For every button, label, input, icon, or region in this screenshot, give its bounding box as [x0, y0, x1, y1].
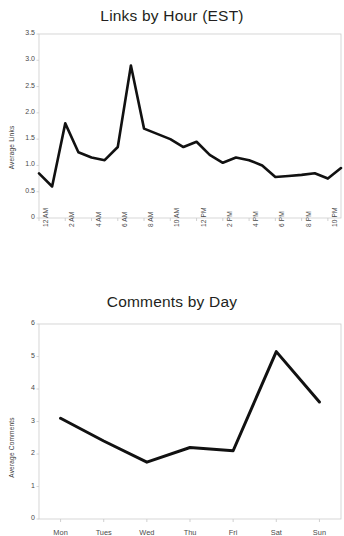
y-tick-label: 2.5 — [13, 82, 35, 89]
links-line-plot — [0, 26, 344, 286]
comments-line-plot — [0, 312, 344, 536]
y-tick-label: 3.0 — [13, 55, 35, 62]
links-chart-title: Links by Hour (EST) — [0, 0, 344, 26]
x-tick-label: 8 PM — [305, 211, 312, 227]
x-tick-label: 8 AM — [147, 212, 154, 227]
comments-plot-area: Average Comments 0123456 MonTuesWedThuFr… — [0, 312, 344, 536]
links-y-axis-title: Average Links — [8, 118, 15, 178]
y-tick-label: 4 — [13, 384, 35, 391]
y-tick-label: 2 — [13, 449, 35, 456]
x-tick-label: 4 AM — [95, 212, 102, 227]
x-tick-label: 2 AM — [68, 212, 75, 227]
x-tick-label: Mon — [41, 528, 81, 536]
x-tick-label: Sun — [299, 528, 339, 536]
y-tick-label: 0 — [13, 514, 35, 521]
x-tick-label: Sat — [256, 528, 296, 536]
y-tick-label: 6 — [13, 319, 35, 326]
x-tick-label: Tues — [84, 528, 124, 536]
links-by-hour-chart: Links by Hour (EST) Average Links 00.51.… — [0, 0, 344, 284]
x-tick-label: 2 PM — [226, 211, 233, 227]
chart-page: Links by Hour (EST) Average Links 00.51.… — [0, 0, 344, 536]
y-tick-label: 1 — [13, 482, 35, 489]
y-tick-label: 5 — [13, 352, 35, 359]
y-tick-label: 2.0 — [13, 108, 35, 115]
x-tick-label: Thu — [170, 528, 210, 536]
y-tick-label: 0.5 — [13, 187, 35, 194]
x-tick-label: 4 PM — [252, 211, 259, 227]
comments-by-day-chart: Comments by Day Average Comments 0123456… — [0, 284, 344, 536]
x-tick-label: 10 AM — [173, 208, 180, 227]
x-tick-label: 12 PM — [200, 207, 207, 227]
y-tick-label: 3.5 — [13, 29, 35, 36]
x-tick-label: 12 AM — [42, 208, 49, 227]
y-tick-label: 3 — [13, 417, 35, 424]
y-tick-label: 1.5 — [13, 134, 35, 141]
x-tick-label: 10 PM — [331, 207, 338, 227]
x-tick-label: Wed — [127, 528, 167, 536]
x-tick-label: 6 AM — [121, 212, 128, 227]
x-tick-label: 6 PM — [278, 211, 285, 227]
y-tick-label: 0 — [13, 213, 35, 220]
links-plot-area: Average Links 00.51.01.52.02.53.03.5 12 … — [0, 26, 344, 286]
comments-chart-title: Comments by Day — [0, 284, 344, 312]
x-tick-label: Fri — [213, 528, 253, 536]
y-tick-label: 1.0 — [13, 160, 35, 167]
